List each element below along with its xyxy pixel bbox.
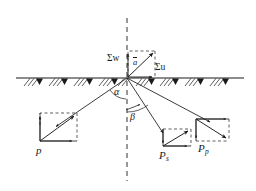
label-pp-sub: p	[205, 147, 209, 156]
label-pp-main: P	[198, 142, 205, 154]
diagram-vector-graphics	[0, 0, 256, 191]
ray-to-ps	[127, 78, 163, 133]
label-ps-sub: s	[166, 154, 169, 163]
label-ps: Ps	[159, 150, 169, 162]
label-a-bar: a	[133, 57, 137, 67]
label-sum-u: Σu	[155, 63, 165, 73]
diagram-canvas: Σw Σu a α β p Ps Pp	[0, 0, 256, 191]
pp-vector-parallelogram	[196, 119, 229, 141]
label-beta: β	[130, 112, 135, 122]
ray-to-pp	[127, 78, 210, 122]
label-a-bar-text: a	[133, 57, 137, 67]
label-alpha: α	[114, 87, 119, 97]
label-p: p	[36, 145, 42, 156]
label-sum-w: Σw	[107, 54, 119, 64]
label-ps-main: P	[159, 149, 166, 161]
ps-vector-parallelogram	[163, 129, 191, 146]
p-vector-parallelogram	[40, 113, 77, 141]
label-sum-w-text: Σw	[107, 53, 119, 63]
label-pp: Pp	[198, 143, 209, 155]
label-sum-u-text: Σu	[155, 62, 165, 72]
ground-support-markers	[36, 79, 229, 85]
